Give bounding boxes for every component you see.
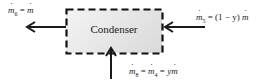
control-volume-border [67,10,163,54]
left-flow-label: m6 = m [8,5,34,17]
left-outlet-arrow-icon [27,22,66,32]
right-flow-label: m5 = (1 − y) m [196,12,248,24]
bottom-inlet-arrow-icon [106,48,116,79]
bottom-flow-label: m8 = m4 = ym [129,66,178,78]
